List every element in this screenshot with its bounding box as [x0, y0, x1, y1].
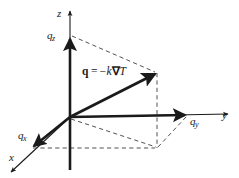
qy-subscript: y [195, 120, 199, 129]
dashed-origin-to-corner [71, 119, 156, 147]
qz-component-label: qz [47, 30, 55, 43]
qx-vector-arrow [34, 117, 70, 146]
equation-equals: = [91, 65, 98, 77]
heat-flux-equation-label: q=−k∇T [82, 66, 126, 78]
qy-component-label: qy [190, 116, 199, 129]
dashed-corner-to-qy [158, 116, 187, 147]
qx-component-label: qx [18, 130, 27, 143]
equation-nabla: ∇ [112, 65, 120, 77]
component-vectors [34, 39, 185, 170]
z-axis-label: z [57, 8, 61, 19]
resultant-heat-flux-vector [70, 74, 155, 117]
equation-minus: − [99, 65, 106, 77]
projection-lines [33, 36, 187, 148]
equation-temperature: T [120, 65, 126, 77]
qz-subscript: z [52, 34, 55, 43]
x-axis-label: x [9, 152, 14, 163]
qx-subscript: x [23, 134, 27, 143]
heat-flux-diagram: z y x qz qy qx q=−k∇T [0, 0, 239, 178]
y-axis-label: y [222, 110, 227, 121]
equation-vector-q: q [82, 65, 88, 77]
qy-vector-arrow [70, 115, 185, 117]
coordinate-axes-illustration [0, 0, 239, 178]
